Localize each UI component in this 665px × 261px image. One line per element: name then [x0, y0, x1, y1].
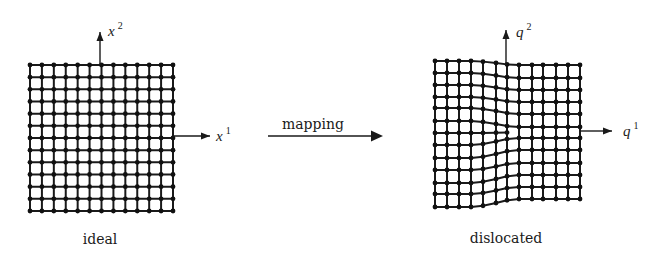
lattice-node: [135, 75, 140, 80]
lattice-node: [171, 172, 176, 177]
lattice-node: [494, 97, 499, 102]
lattice-node: [457, 181, 462, 186]
lattice-node: [445, 95, 450, 100]
lattice-node: [457, 131, 462, 136]
lattice-node: [469, 205, 474, 210]
lattice-node: [481, 131, 486, 136]
lattice-node: [457, 143, 462, 148]
lattice-node: [159, 160, 164, 165]
q1-arrowhead-icon: [603, 128, 612, 135]
lattice-node: [51, 196, 56, 201]
lattice-node: [28, 87, 33, 92]
lattice-node: [99, 136, 104, 141]
dislocated-caption: dislocated: [470, 230, 543, 246]
lattice-node: [566, 185, 571, 190]
lattice-node: [147, 148, 152, 153]
lattice-node: [566, 112, 571, 117]
lattice-node: [123, 172, 128, 177]
lattice-node: [28, 209, 33, 214]
lattice-node: [51, 111, 56, 116]
lattice-node: [554, 148, 559, 153]
lattice-node: [159, 75, 164, 80]
q1-axis-label: q1: [623, 120, 639, 139]
lattice-node: [517, 148, 522, 153]
lattice-node: [469, 156, 474, 161]
lattice-node: [28, 99, 33, 104]
lattice-node: [40, 123, 45, 128]
lattice-node: [87, 87, 92, 92]
lattice-node: [481, 95, 486, 100]
lattice-node: [445, 119, 450, 124]
lattice-node: [578, 197, 583, 202]
lattice-node: [566, 136, 571, 141]
lattice-node: [541, 173, 546, 178]
lattice-node: [578, 88, 583, 93]
lattice-node: [159, 209, 164, 214]
lattice-node: [135, 63, 140, 68]
lattice-node: [433, 106, 438, 111]
lattice-node: [63, 136, 68, 141]
lattice-node: [554, 100, 559, 105]
lattice-node: [433, 205, 438, 210]
lattice-node: [494, 201, 499, 206]
lattice-node: [494, 188, 499, 193]
lattice-node: [433, 59, 438, 64]
lattice-node: [171, 63, 176, 68]
lattice-node: [445, 192, 450, 197]
lattice-node: [481, 179, 486, 184]
lattice-node: [111, 172, 116, 177]
lattice-node: [445, 143, 450, 148]
lattice-node: [517, 197, 522, 202]
lattice-node: [75, 172, 80, 177]
lattice-node: [494, 61, 499, 66]
lattice-node: [469, 59, 474, 64]
lattice-node: [147, 160, 152, 165]
lattice-node: [433, 192, 438, 197]
lattice-node: [445, 156, 450, 161]
lattice-node: [517, 125, 522, 130]
lattice-node: [28, 75, 33, 80]
lattice-node: [481, 191, 486, 196]
lattice-node: [541, 100, 546, 105]
q1-axis: q1: [580, 120, 639, 139]
lattice-node: [63, 63, 68, 68]
lattice-node: [75, 184, 80, 189]
lattice-node: [40, 99, 45, 104]
lattice-node: [28, 136, 33, 141]
lattice-node: [494, 122, 499, 127]
lattice-node: [123, 209, 128, 214]
x1-axis-label: x1: [215, 125, 231, 144]
lattice-node: [578, 161, 583, 166]
lattice-node: [40, 209, 45, 214]
lattice-node: [63, 75, 68, 80]
lattice-node: [159, 148, 164, 153]
lattice-node: [40, 148, 45, 153]
lattice-node: [99, 123, 104, 128]
lattice-node: [111, 63, 116, 68]
lattice-node: [40, 184, 45, 189]
lattice-node: [147, 184, 152, 189]
lattice-node: [99, 111, 104, 116]
lattice-node: [51, 148, 56, 153]
lattice-node: [517, 112, 522, 117]
lattice-node: [566, 197, 571, 202]
lattice-node: [457, 106, 462, 111]
lattice-node: [445, 181, 450, 186]
lattice-node: [99, 196, 104, 201]
lattice-node: [481, 154, 486, 159]
lattice-node: [554, 88, 559, 93]
lattice-node: [135, 136, 140, 141]
lattice-node: [40, 111, 45, 116]
lattice-node: [469, 71, 474, 76]
lattice-node: [505, 149, 510, 154]
lattice-node: [530, 63, 535, 68]
lattice-node: [433, 95, 438, 100]
lattice-node: [481, 71, 486, 76]
lattice-node: [517, 161, 522, 166]
lattice-node: [75, 160, 80, 165]
lattice-node: [530, 161, 535, 166]
x1-axis: x1: [173, 125, 231, 144]
q2-arrowhead-icon: [503, 30, 510, 39]
lattice-node: [111, 209, 116, 214]
lattice-node: [51, 63, 56, 68]
